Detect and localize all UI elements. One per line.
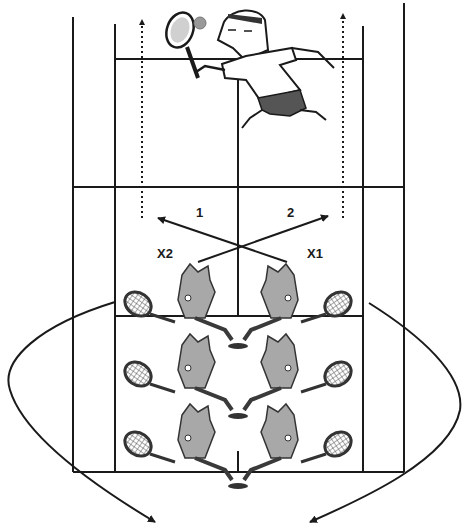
- player-x2-label: X2: [157, 247, 173, 260]
- path-1-label: 1: [196, 206, 203, 219]
- player-figure-x2: [120, 264, 248, 349]
- player-queue-right: [244, 264, 356, 480]
- queue-player-right-3: [244, 404, 356, 480]
- rotation-arrow-right: [310, 303, 460, 522]
- crossing-paths: [158, 216, 328, 262]
- path-1-arrow: [158, 218, 287, 262]
- player-x1-label: X1: [307, 247, 323, 260]
- ball-icon: [194, 17, 206, 29]
- rotation-arrows: [8, 302, 460, 522]
- queue-player-right-2: [244, 334, 356, 410]
- racket-icon: [162, 9, 199, 78]
- player-queue-left: [120, 264, 248, 489]
- coach-figure: [162, 9, 334, 128]
- player-figure-x1: [244, 264, 356, 340]
- tennis-drill-diagram: 1 2 X2 X1: [0, 0, 468, 528]
- path-2-label: 2: [287, 206, 294, 219]
- rotation-arrow-left: [8, 302, 155, 522]
